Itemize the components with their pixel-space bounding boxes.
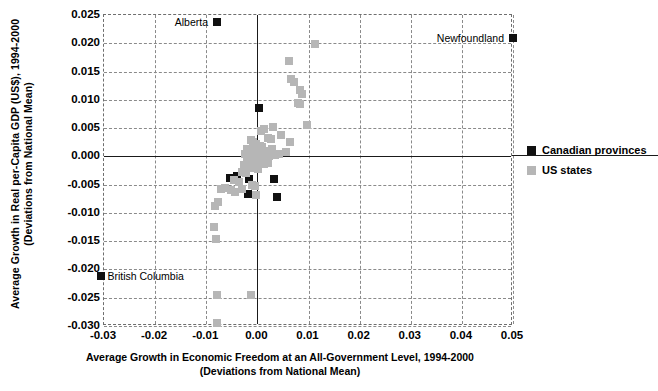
- data-point-canadian-province: [213, 18, 221, 26]
- gridline-vertical: [462, 15, 463, 324]
- x-tick-label: 0.00: [245, 329, 267, 341]
- data-point-us-state: [213, 319, 221, 327]
- data-point-us-state: [242, 169, 250, 177]
- gridline-vertical: [513, 15, 514, 324]
- data-point-us-state: [296, 100, 304, 108]
- y-axis-title: Average Growth in Real per-Capita GDP (U…: [0, 0, 44, 330]
- data-point-us-state: [285, 57, 293, 65]
- gridline-horizontal: [104, 241, 511, 242]
- gridline-vertical: [360, 15, 361, 324]
- chart-legend: Canadian provincesUS states: [527, 140, 658, 180]
- data-point-us-state: [286, 138, 294, 146]
- y-tick-label: -0.020: [46, 262, 100, 274]
- data-point-us-state: [254, 165, 262, 173]
- legend-swatch-icon: [527, 166, 536, 175]
- legend-item[interactable]: Canadian provinces: [527, 140, 658, 160]
- gridline-horizontal: [104, 326, 511, 327]
- legend-item[interactable]: US states: [527, 160, 658, 180]
- data-point-us-state: [212, 235, 220, 243]
- scatter-chart-figure: Average Growth in Real per-Capita GDP (U…: [0, 0, 658, 391]
- gridline-horizontal: [104, 298, 511, 299]
- y-tick-label: -0.005: [46, 178, 100, 190]
- data-point-canadian-province: [270, 175, 278, 183]
- y-tick-label: -0.015: [46, 234, 100, 246]
- legend-item-label: Canadian provinces: [542, 144, 647, 156]
- data-point-us-state: [213, 291, 221, 299]
- data-point-us-state: [252, 191, 260, 199]
- data-point-us-state: [247, 291, 255, 299]
- gridline-vertical: [411, 15, 412, 324]
- data-point-us-state: [251, 182, 259, 190]
- point-label-newfoundland: Newfoundland: [437, 32, 504, 44]
- x-tick-label: -0.03: [90, 329, 116, 341]
- gridline-horizontal: [104, 100, 511, 101]
- data-point-canadian-province: [97, 272, 105, 280]
- data-point-canadian-province: [509, 34, 517, 42]
- x-axis-tick-labels: -0.03-0.02-0.010.000.010.020.030.040.05: [0, 329, 658, 347]
- x-axis-title-line2: (Deviations from National Mean): [0, 365, 560, 379]
- data-point-canadian-province: [255, 104, 263, 112]
- gridline-horizontal: [104, 185, 511, 186]
- data-point-us-state: [267, 135, 275, 143]
- y-tick-label: 0.010: [46, 93, 100, 105]
- y-tick-label: -0.010: [46, 206, 100, 218]
- y-tick-label: -0.025: [46, 291, 100, 303]
- x-tick-label: -0.02: [141, 329, 167, 341]
- data-point-us-state: [238, 185, 246, 193]
- x-tick-label: 0.05: [501, 329, 523, 341]
- y-axis-title-line1: Average Growth in Real per-Capita GDP (U…: [9, 19, 22, 309]
- y-tick-label: 0.015: [46, 65, 100, 77]
- data-point-us-state: [217, 185, 225, 193]
- y-tick-label: 0.005: [46, 121, 100, 133]
- point-label-alberta: Alberta: [175, 16, 208, 28]
- gridline-vertical: [309, 15, 310, 324]
- x-tick-label: -0.01: [192, 329, 218, 341]
- data-point-us-state: [277, 131, 285, 139]
- data-point-us-state: [298, 90, 306, 98]
- data-point-us-state: [269, 123, 277, 131]
- data-point-us-state: [311, 40, 319, 48]
- data-point-us-state: [211, 202, 219, 210]
- x-axis-title-line1: Average Growth in Economic Freedom at an…: [0, 351, 560, 365]
- data-point-canadian-province: [273, 193, 281, 201]
- y-tick-label: 0.025: [46, 8, 100, 20]
- point-label-british-columbia: British Columbia: [107, 270, 183, 282]
- x-zero-axis-line: [104, 156, 511, 157]
- plot-area: AlbertaNewfoundlandBritish Columbia: [103, 14, 512, 325]
- gridline-horizontal: [104, 72, 511, 73]
- x-tick-label: 0.03: [399, 329, 421, 341]
- legend-swatch-icon: [527, 146, 536, 155]
- gridline-vertical: [206, 15, 207, 324]
- x-axis-title: Average Growth in Economic Freedom at an…: [0, 351, 560, 378]
- data-point-us-state: [264, 159, 272, 167]
- y-axis-title-line2: (Deviations from National Mean): [22, 82, 35, 246]
- gridline-horizontal: [104, 213, 511, 214]
- y-tick-label: 0.000: [46, 149, 100, 161]
- data-point-us-state: [210, 223, 218, 231]
- x-tick-label: 0.02: [347, 329, 369, 341]
- data-point-us-state: [303, 121, 311, 129]
- x-tick-label: 0.01: [296, 329, 318, 341]
- legend-item-label: US states: [542, 164, 592, 176]
- data-point-us-state: [282, 148, 290, 156]
- x-tick-label: 0.04: [450, 329, 472, 341]
- y-tick-label: 0.020: [46, 36, 100, 48]
